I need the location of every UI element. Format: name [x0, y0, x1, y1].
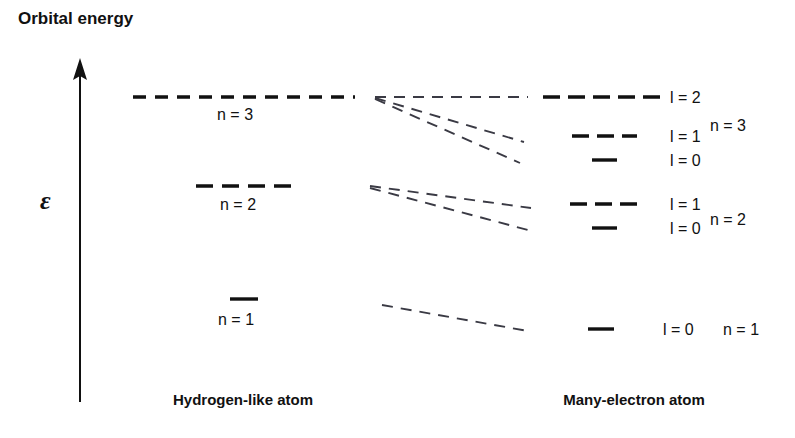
- caption-hydrogen-like: Hydrogen-like atom: [173, 391, 313, 408]
- energy-axis: ε: [40, 58, 87, 402]
- level-label-h-n1: n = 1: [218, 311, 254, 328]
- energy-level-diagram: Orbital energy ε n = 3 n = 2 n = 1: [0, 0, 795, 438]
- correlation-line-n2-l0: [370, 188, 528, 230]
- correlation-line-n3-l1: [375, 98, 524, 142]
- level-label-m-n2-l0: l = 0: [670, 220, 701, 237]
- level-label-h-n2: n = 2: [220, 196, 256, 213]
- correlation-line-n3-l0: [375, 99, 520, 163]
- level-label-m-n2-l1: l = 1: [670, 196, 701, 213]
- correlation-line-n2-l1: [370, 186, 531, 208]
- shell-label-m-n3: n = 3: [710, 117, 746, 134]
- many-electron-column: l = 2 l = 1 l = 0 n = 3 l = 1 l = 0 n = …: [543, 89, 759, 338]
- hydrogen-like-column: n = 3 n = 2 n = 1: [133, 97, 355, 328]
- caption-many-electron: Many-electron atom: [563, 391, 705, 408]
- diagram-canvas: Orbital energy ε n = 3 n = 2 n = 1: [0, 0, 795, 438]
- axis-symbol-epsilon: ε: [40, 186, 51, 215]
- axis-title: Orbital energy: [18, 9, 134, 28]
- level-label-h-n3: n = 3: [217, 106, 253, 123]
- level-label-m-n1-l0: l = 0: [663, 321, 694, 338]
- correlation-lines: [370, 97, 531, 331]
- level-label-m-n3-l0: l = 0: [670, 152, 701, 169]
- level-label-m-n3-l1: l = 1: [670, 128, 701, 145]
- correlation-line-n1-l0: [382, 305, 528, 331]
- shell-label-m-n1: n = 1: [723, 321, 759, 338]
- shell-label-m-n2: n = 2: [710, 211, 746, 228]
- level-label-m-n3-l2: l = 2: [670, 89, 701, 106]
